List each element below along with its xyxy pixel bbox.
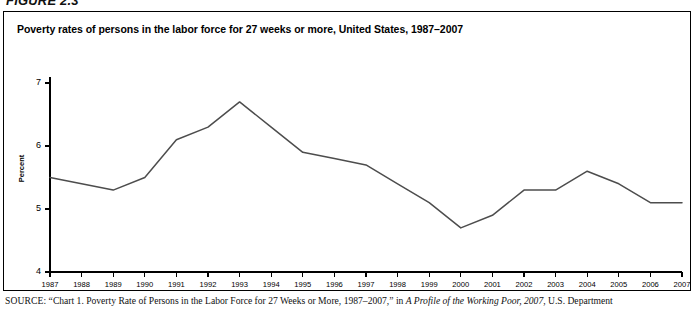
figure-box: Poverty rates of persons in the labor fo… <box>3 11 691 291</box>
y-axis-tick-label: 5 <box>27 203 41 213</box>
line-chart-svg <box>4 12 692 292</box>
source-note: SOURCE: “Chart 1. Poverty Rate of Person… <box>5 295 691 307</box>
y-axis-title: Percent <box>17 139 26 199</box>
source-text-after: , U.S. Department <box>543 295 613 306</box>
chart-series-group <box>50 102 682 228</box>
source-prefix: SOURCE: <box>5 295 46 306</box>
source-italic-title: A Profile of the Working Poor, 2007 <box>406 295 543 306</box>
figure-number-label: FIGURE 2.3 <box>6 0 79 8</box>
data-line-poverty-rate <box>50 102 682 228</box>
x-axis-tick-label: 2007 <box>662 280 694 289</box>
y-axis-tick-label: 7 <box>27 77 41 87</box>
chart-plot-area: Percent 4567 198719881989199019911992199… <box>4 12 692 292</box>
source-text-before: “Chart 1. Poverty Rate of Persons in the… <box>46 295 406 306</box>
chart-axes <box>45 77 682 277</box>
y-axis-tick-label: 4 <box>27 266 41 276</box>
y-axis-tick-label: 6 <box>27 140 41 150</box>
